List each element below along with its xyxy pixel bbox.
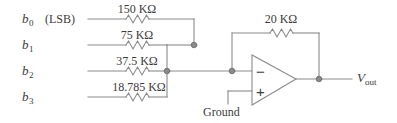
junction-dot-summing [164, 68, 170, 74]
resistor-value-b0: 150 KΩ [105, 3, 169, 15]
branch-b3 [88, 93, 167, 101]
input-label-b3: b3 [22, 90, 33, 103]
branch-b0 [88, 15, 194, 23]
junction-dot-b1 [191, 42, 197, 48]
resistor-symbol-b1 [126, 41, 149, 49]
resistor-value-b1: 75 KΩ [105, 29, 169, 41]
resistor-value-feedback: 20 KΩ [249, 13, 313, 25]
resistor-symbol-b0 [126, 15, 149, 23]
junction-dot-output [316, 76, 322, 82]
resistor-value-b3: 18.785 KΩ [99, 81, 179, 93]
opamp-inverting-sign: − [256, 64, 265, 79]
branch-b2 [88, 67, 167, 75]
lsb-annotation: (LSB) [45, 13, 75, 25]
input-label-b0: b0 [22, 12, 33, 25]
opamp-noninverting-sign: + [256, 84, 265, 99]
ground-label: Ground [203, 106, 240, 118]
resistor-symbol-b3 [126, 93, 149, 101]
input-label-b1: b1 [22, 38, 33, 51]
junction-dot-inverting-input [229, 68, 235, 74]
output-label-vout: Vout [357, 71, 376, 84]
input-label-b2: b2 [22, 64, 33, 77]
resistor-symbol-b2 [126, 67, 149, 75]
binary-weighted-dac-figure: b0 (LSB) b1 b2 b3 150 KΩ 75 KΩ 37.5 KΩ 1… [0, 0, 397, 123]
resistor-value-b2: 37.5 KΩ [105, 55, 169, 67]
branch-b1 [88, 41, 167, 49]
resistor-symbol-feedback [270, 29, 293, 37]
